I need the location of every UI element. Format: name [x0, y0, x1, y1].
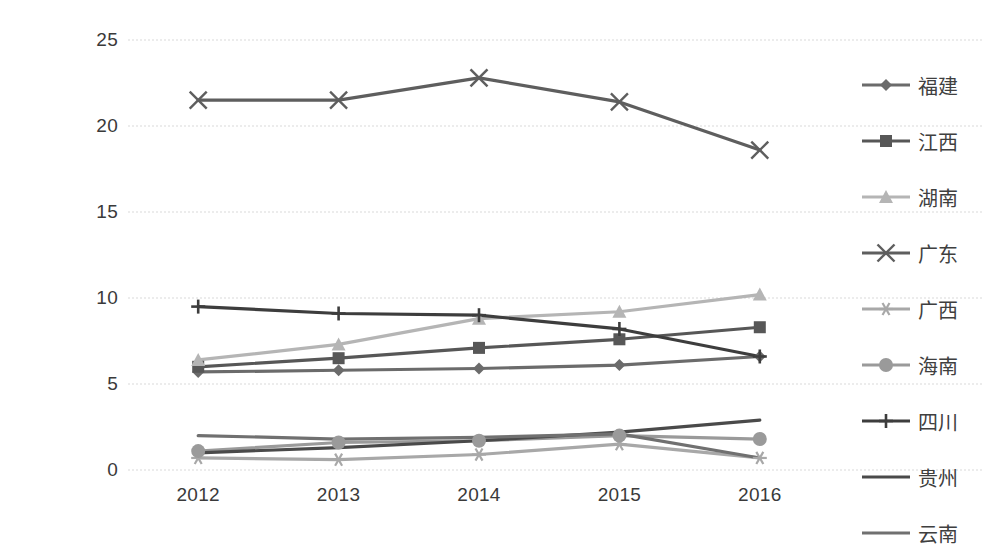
legend-item-1[interactable]: 江西 — [860, 126, 958, 156]
series-line-3 — [198, 78, 760, 150]
x-tick-label: 2016 — [700, 484, 820, 506]
data-point-circle — [472, 434, 486, 448]
legend-marker-icon — [860, 129, 912, 153]
data-point-square — [880, 135, 892, 147]
legend-item-5[interactable]: 海南 — [860, 350, 958, 380]
legend-marker-icon — [860, 241, 912, 265]
data-point-circle — [612, 429, 626, 443]
data-point-cross — [751, 142, 768, 159]
legend-item-3[interactable]: 广东 — [860, 238, 958, 268]
data-point-diamond — [333, 364, 345, 376]
legend-marker-icon — [860, 409, 912, 433]
data-point-circle — [332, 435, 346, 449]
legend-label: 海南 — [918, 351, 958, 380]
data-point-diamond — [880, 79, 892, 91]
data-point-square — [754, 321, 766, 333]
data-point-plus — [753, 349, 767, 363]
legend-marker-icon — [860, 521, 912, 545]
data-point-plus — [191, 300, 205, 314]
data-point-asterisk — [332, 454, 346, 466]
data-point-circle — [879, 358, 893, 372]
y-tick-label: 10 — [58, 287, 118, 309]
x-tick-label: 2015 — [559, 484, 679, 506]
data-point-diamond — [613, 359, 625, 371]
data-point-plus — [879, 414, 893, 428]
legend-label: 江西 — [918, 127, 958, 156]
legend-marker-icon — [860, 297, 912, 321]
data-point-circle — [753, 432, 767, 446]
legend-label: 福建 — [918, 71, 958, 100]
legend-label: 贵州 — [918, 463, 958, 492]
data-point-plus — [332, 306, 346, 320]
data-point-circle — [191, 444, 205, 458]
legend-marker-icon — [860, 73, 912, 97]
data-point-asterisk — [753, 452, 767, 464]
chart-legend: 福建江西湖南广东广西海南四川贵州云南 — [860, 40, 982, 524]
legend-label: 广西 — [918, 295, 958, 324]
legend-label: 云南 — [918, 519, 958, 548]
legend-item-2[interactable]: 湖南 — [860, 182, 958, 212]
x-tick-label: 2014 — [419, 484, 539, 506]
data-point-asterisk — [472, 448, 486, 460]
y-tick-label: 0 — [58, 459, 118, 481]
legend-item-8[interactable]: 云南 — [860, 518, 958, 548]
legend-marker-icon — [860, 185, 912, 209]
x-tick-label: 2012 — [138, 484, 258, 506]
data-point-square — [333, 352, 345, 364]
legend-label: 湖南 — [918, 183, 958, 212]
x-tick-label: 2013 — [279, 484, 399, 506]
data-point-asterisk — [879, 303, 893, 315]
legend-item-7[interactable]: 贵州 — [860, 462, 958, 492]
data-point-square — [473, 342, 485, 354]
legend-label: 四川 — [918, 407, 958, 436]
y-tick-label: 5 — [58, 373, 118, 395]
legend-item-6[interactable]: 四川 — [860, 406, 958, 436]
y-tick-label: 20 — [58, 115, 118, 137]
y-tick-label: 15 — [58, 201, 118, 223]
legend-label: 广东 — [918, 239, 958, 268]
legend-item-4[interactable]: 广西 — [860, 294, 958, 324]
y-tick-label: 25 — [58, 29, 118, 51]
data-point-diamond — [473, 363, 485, 375]
legend-item-0[interactable]: 福建 — [860, 70, 958, 100]
legend-marker-icon — [860, 353, 912, 377]
legend-marker-icon — [860, 465, 912, 489]
